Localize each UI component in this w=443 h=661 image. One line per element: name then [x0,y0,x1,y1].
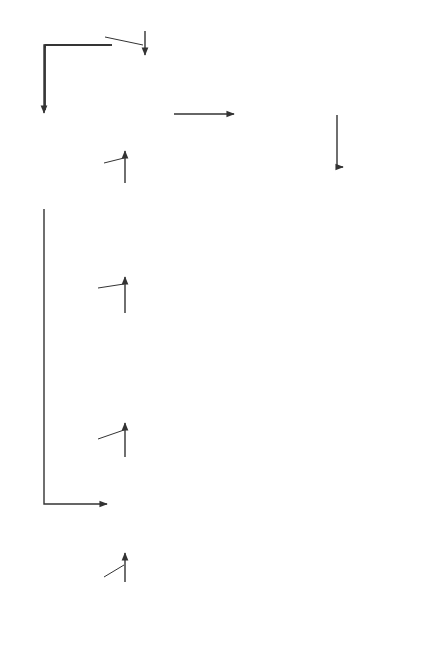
connector-lines [0,0,443,661]
flowchart-canvas [0,0,443,661]
